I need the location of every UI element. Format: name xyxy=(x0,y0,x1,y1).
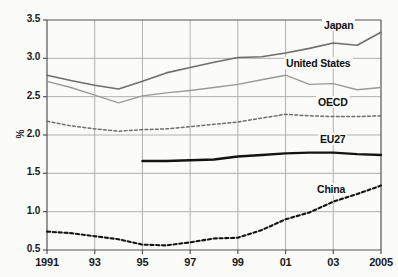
series-label-china: China xyxy=(315,183,347,195)
series-label-oecd: OECD xyxy=(316,96,350,108)
series-label-eu27: EU27 xyxy=(318,133,347,145)
x-tick-label: 95 xyxy=(119,256,165,268)
y-tick-label: 3.0 xyxy=(6,51,40,62)
x-tick-label: 97 xyxy=(167,256,213,268)
x-tick-label: 2005 xyxy=(358,256,398,268)
x-tick-label: 03 xyxy=(310,256,356,268)
x-tick-label: 1991 xyxy=(24,256,70,268)
series-line-oecd xyxy=(47,114,381,131)
series-label-japan: Japan xyxy=(322,19,355,31)
y-axis-title: % xyxy=(15,123,26,139)
chart-container: 3.53.02.52.01.51.00.5 199193959799010320… xyxy=(0,0,398,277)
y-tick-label: 2.5 xyxy=(6,90,40,101)
y-tick-label: 1.0 xyxy=(6,205,40,216)
y-tick-label: 1.5 xyxy=(6,166,40,177)
y-tick-label: 3.5 xyxy=(6,13,40,24)
x-tick-label: 93 xyxy=(72,256,118,268)
x-tick-label: 99 xyxy=(215,256,261,268)
x-tick-label: 01 xyxy=(263,256,309,268)
y-tick-label: 0.5 xyxy=(6,243,40,254)
series-line-eu27 xyxy=(142,153,381,161)
series-label-united-states: United States xyxy=(284,57,353,69)
